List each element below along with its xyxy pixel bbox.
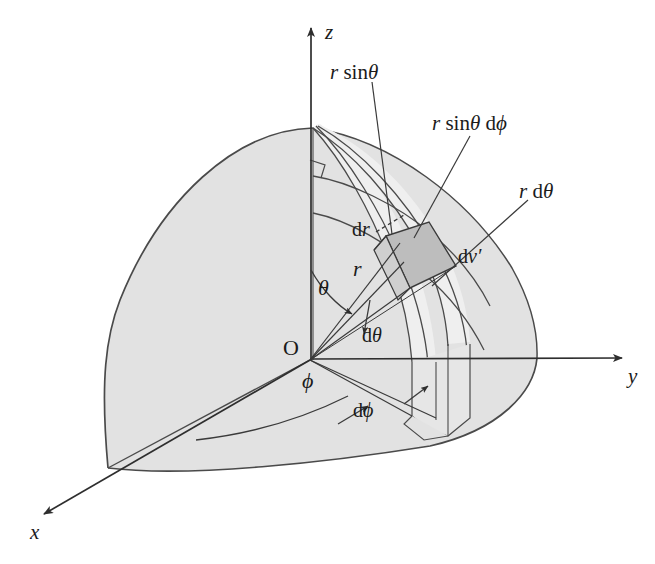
d-phi-label: dϕ [353,400,373,420]
d-v-prime-label: dv′ [458,246,481,266]
r-radius-label: r [353,258,362,280]
z-axis-label: z [325,22,333,43]
phi-angle-label: ϕ [302,370,313,392]
y-axis-line [310,358,622,359]
origin-label: O [283,337,299,359]
d-r-label: dr [352,219,370,239]
r-sin-theta-d-phi-label: r sinθ dϕ [432,113,507,134]
y-axis-label: y [628,366,637,387]
r-sin-theta-label: r sinθ [330,62,378,83]
spherical-coordinates-figure: z y x O r sinθ r sinθ dϕ r dθ dr dv′ r θ… [0,0,655,564]
x-axis-label: x [30,522,39,543]
theta-angle-label: θ [318,277,329,299]
d-theta-label: dθ [362,325,382,345]
r-d-theta-label: r dθ [519,181,553,202]
